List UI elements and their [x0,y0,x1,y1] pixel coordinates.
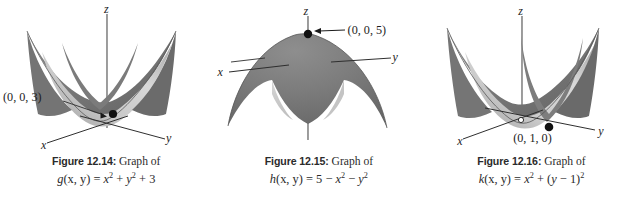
plot-12-14: z x y (0, 0, 3) [0,0,213,155]
figure-12-15: z x y (0, 0, 5) Figure 12.15: Graph of h… [213,0,426,207]
plot-12-16: z x y (0, 1, 0) [425,0,638,155]
y-axis-label: y [166,131,171,146]
caption-12-16: Figure 12.16: Graph of k(x, y) = x2 + (y… [425,154,638,187]
formula-op-2: − [348,172,355,186]
vertex-point-label: (0, 1, 0) [513,131,552,146]
formula-equals: = [306,172,313,186]
peak-dot [303,30,311,38]
graph-of-text: Graph of [119,155,161,168]
caption-12-15: Figure 12.15: Graph of h(x, y) = 5 − x2 … [213,154,426,187]
caption-line-1: Figure 12.14: Graph of [0,154,213,170]
caption-formula: g(x, y) = x2 + y2 + 3 [0,171,213,188]
z-axis-label: z [304,4,309,19]
figure-12-14: z x y (0, 0, 3) Figure 12.14: Graph of g… [0,0,213,207]
formula-term-2: y2 [126,172,136,186]
figure-number: Figure 12.15: [265,155,329,167]
y-axis-label: y [393,50,398,65]
formula-equals: = [514,172,521,186]
x-axis-label: x [457,134,462,149]
caption-line-1: Figure 12.15: Graph of [213,154,426,170]
graph-of-text: Graph of [544,155,586,168]
vertex-dot [545,123,554,132]
figure-number: Figure 12.14: [52,155,116,167]
figure-row: z x y (0, 0, 3) Figure 12.14: Graph of g… [0,0,638,207]
figure-12-16: z x y (0, 1, 0) Figure 12.16: Graph of k… [425,0,638,207]
formula-term-3: 3 [149,172,155,186]
formula-term-3: y2 [358,172,368,186]
formula-equals: = [93,172,100,186]
y-axis-label: y [598,124,603,139]
peak-leader-line [319,30,345,31]
vertex-dot [109,110,117,118]
formula-op-1: + [116,172,123,186]
graph-of-text: Graph of [332,155,374,168]
formula-op-2: + [139,172,146,186]
formula-op-1: + [537,172,544,186]
peak-point-label: (0, 0, 5) [348,23,387,38]
formula-op-1: − [325,172,332,186]
formula-term-1: x2 [524,172,534,186]
peak-leader-arrow [314,28,321,34]
formula-args: (x, y) [276,172,303,186]
vertex-point-label: (0, 0, 3) [3,90,42,105]
x-axis-label: x [218,65,223,80]
formula-args: (x, y) [484,172,511,186]
plot-12-15: z x y (0, 0, 5) [213,0,426,155]
z-axis-label: z [518,4,523,19]
caption-12-14: Figure 12.14: Graph of g(x, y) = x2 + y2… [0,154,213,187]
caption-formula: k(x, y) = x2 + (y − 1)2 [425,171,638,188]
figure-number: Figure 12.16: [477,155,541,167]
formula-term-2: x2 [336,172,346,186]
origin-marker [519,117,524,122]
formula-args: (x, y) [63,172,90,186]
surface-dome [228,34,387,128]
formula-term-2: (y − 1)2 [547,172,584,186]
formula-term-1: x2 [104,172,114,186]
z-axis-label: z [104,2,109,17]
paraboloid-up-svg-1 [0,0,213,155]
x-axis-label: x [41,138,46,153]
formula-term-1: 5 [316,172,322,186]
caption-formula: h(x, y) = 5 − x2 − y2 [213,171,426,188]
paraboloid-down-svg [213,0,426,155]
caption-line-1: Figure 12.16: Graph of [425,154,638,170]
